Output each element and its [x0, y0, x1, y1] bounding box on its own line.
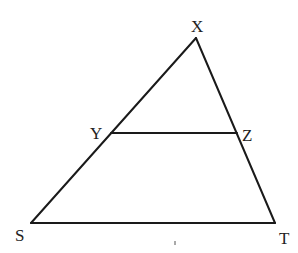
segment-xs	[31, 38, 196, 223]
label-y: Y	[90, 124, 102, 143]
segments	[31, 38, 275, 223]
label-z: Z	[242, 126, 252, 145]
label-x: X	[191, 17, 203, 36]
label-t: T	[279, 229, 290, 248]
triangle-diagram: X Y Z S T	[0, 0, 298, 253]
label-s: S	[15, 226, 24, 245]
segment-xt	[196, 38, 275, 223]
